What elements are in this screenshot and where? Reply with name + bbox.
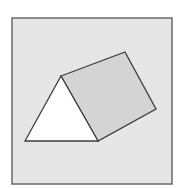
geometry-diagram bbox=[0, 0, 179, 189]
